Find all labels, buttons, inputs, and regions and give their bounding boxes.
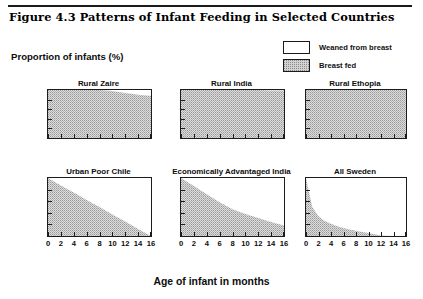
x-tick-label: 12: [377, 239, 385, 248]
chart-title-urban-poor-chile: Urban Poor Chile: [47, 166, 150, 177]
chart-title-text: All Sweden: [334, 166, 376, 177]
x-tick-label: 10: [364, 239, 372, 248]
x-tick-label: 2: [59, 239, 63, 248]
chart-cell-all-sweden: All Sweden 0246810121416: [305, 166, 407, 252]
x-tick-label: 6: [217, 239, 221, 248]
figure-title: Figure 4.3 Patterns of Infant Feeding in…: [9, 10, 415, 24]
plot-urban-poor-chile: [47, 177, 152, 237]
x-tick-label: 2: [316, 239, 320, 248]
legend-item-breast-fed: Breast fed: [283, 58, 423, 73]
chart-title-text: Economically Advantaged India: [172, 166, 291, 177]
x-tick-label: 10: [108, 239, 116, 248]
x-tick-label: 8: [230, 239, 234, 248]
plot-rural-india: [180, 89, 285, 139]
legend: Weaned from breast Breast fed: [283, 40, 423, 76]
x-tick-label: 14: [134, 239, 142, 248]
x-tick-label: 4: [72, 239, 76, 248]
chart-row-bottom: Urban Poor Chile 0246810121416 Economica…: [0, 166, 423, 262]
chart-title-rural-india: Rural India: [180, 78, 283, 89]
chart-title-text: Urban Poor Chile: [66, 166, 130, 177]
plot-economically-advantaged-india: [180, 177, 285, 237]
legend-swatch-weaned-icon: [283, 41, 310, 54]
plot-all-sweden: [305, 177, 407, 237]
chart-title-rural-zaire: Rural Zaire: [47, 78, 150, 89]
x-tick-label: 10: [241, 239, 249, 248]
plot-rural-ethopia: [305, 89, 407, 139]
x-tick-label: 6: [341, 239, 345, 248]
chart-row-top: Rural Zaire Rural India Rural Ethopia: [0, 78, 423, 166]
figure-container: Figure 4.3 Patterns of Infant Feeding in…: [0, 0, 423, 299]
x-tick-label: 14: [267, 239, 275, 248]
legend-swatch-breast-fed-icon: [283, 59, 310, 72]
chart-title-text: Rural Zaire: [78, 78, 119, 89]
legend-label-breast-fed: Breast fed: [319, 61, 356, 70]
x-tick-label: 12: [254, 239, 262, 248]
chart-cell-rural-ethopia: Rural Ethopia: [305, 78, 407, 139]
x-tick-label: 16: [402, 239, 410, 248]
x-tick-label: 16: [280, 239, 288, 248]
x-tick-label: 0: [179, 239, 183, 248]
chart-cell-rural-india: Rural India: [180, 78, 285, 139]
chart-cell-rural-zaire: Rural Zaire: [47, 78, 152, 139]
x-tick-labels-col-2: 0246810121416: [305, 239, 407, 252]
chart-grid: Rural Zaire Rural India Rural Ethopia: [0, 78, 423, 262]
chart-title-rural-ethopia: Rural Ethopia: [305, 78, 405, 89]
x-tick-label: 14: [389, 239, 397, 248]
x-axis-caption: Age of infant in months: [0, 276, 423, 287]
header-rule: [8, 5, 412, 7]
chart-cell-urban-poor-chile: Urban Poor Chile 0246810121416: [47, 166, 152, 252]
x-tick-label: 6: [84, 239, 88, 248]
x-tick-label: 2: [192, 239, 196, 248]
chart-title-all-sweden: All Sweden: [305, 166, 405, 177]
x-tick-label: 4: [329, 239, 333, 248]
x-tick-labels-col-0: 0246810121416: [47, 239, 152, 252]
x-tick-label: 0: [304, 239, 308, 248]
x-tick-label: 16: [147, 239, 155, 248]
x-tick-labels-col-1: 0246810121416: [180, 239, 285, 252]
legend-item-weaned: Weaned from breast: [283, 40, 423, 55]
chart-cell-economically-advantaged-india: Economically Advantaged India 0246810121…: [180, 166, 285, 252]
plot-rural-zaire: [47, 89, 152, 139]
x-tick-label: 8: [354, 239, 358, 248]
legend-label-weaned: Weaned from breast: [319, 43, 392, 52]
y-axis-caption: Proportion of infants (%): [11, 51, 123, 62]
x-tick-label: 12: [121, 239, 129, 248]
chart-title-text: Rural India: [211, 78, 252, 89]
x-tick-label: 0: [46, 239, 50, 248]
x-tick-label: 8: [97, 239, 101, 248]
x-tick-label: 4: [205, 239, 209, 248]
chart-title-economically-advantaged-india: Economically Advantaged India: [180, 166, 283, 177]
chart-title-text: Rural Ethopia: [329, 78, 380, 89]
